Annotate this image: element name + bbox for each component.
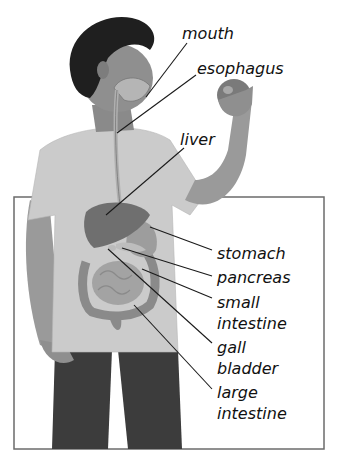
label-gall-bladder-line2: bladder: [217, 358, 278, 379]
label-mouth: mouth: [182, 23, 234, 44]
label-small-intestine-line1: small: [217, 292, 260, 313]
figure-illustration: [0, 0, 337, 461]
label-pancreas: pancreas: [217, 267, 290, 288]
label-esophagus: esophagus: [197, 58, 284, 79]
digestive-system-diagram: mouth esophagus liver stomach pancreas s…: [0, 0, 337, 461]
label-stomach: stomach: [217, 243, 286, 264]
label-gall-bladder-line1: gall: [217, 337, 246, 358]
label-small-intestine-line2: intestine: [217, 313, 287, 334]
leader-mouth: [146, 43, 187, 97]
label-liver: liver: [180, 129, 215, 150]
pants: [52, 350, 182, 449]
label-large-intestine-line1: large: [217, 382, 258, 403]
label-large-intestine-line2: intestine: [217, 403, 287, 424]
